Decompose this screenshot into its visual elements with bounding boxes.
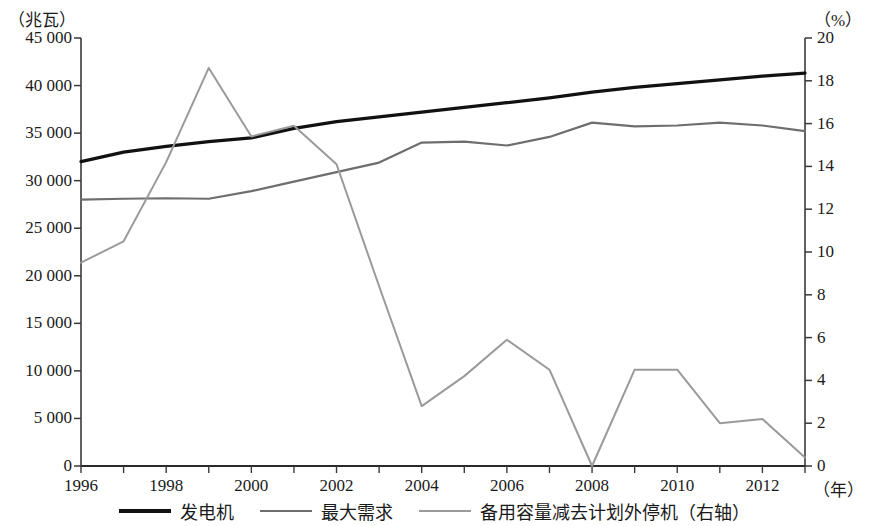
legend-item[interactable]: 发电机 [119,498,234,524]
legend-line-icon [119,509,171,513]
legend-line-icon [419,510,471,512]
chart-legend: 发电机最大需求备用容量减去计划外停机（右轴） [0,496,869,526]
legend-item[interactable]: 备用容量减去计划外停机（右轴） [419,498,750,524]
legend-line-icon [260,510,312,512]
legend-label: 发电机 [180,498,234,524]
series-line-2 [81,68,805,466]
legend-label: 备用容量减去计划外停机（右轴） [480,498,750,524]
series-line-1 [81,123,805,200]
plot-area [0,0,869,526]
series-line-0 [81,73,805,161]
legend-item[interactable]: 最大需求 [260,498,393,524]
chart-figure: （兆瓦） （%） 05 00010 00015 00020 00025 0003… [0,0,869,526]
legend-label: 最大需求 [321,498,393,524]
